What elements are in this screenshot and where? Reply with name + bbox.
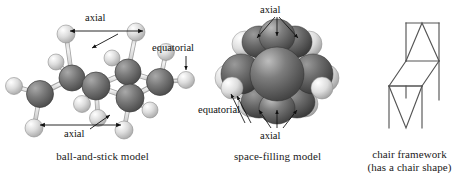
label-equatorial-space: equatorial <box>198 104 240 116</box>
caption-space-filling: space-filling model <box>205 150 350 163</box>
caption-ball-and-stick: ball-and-stick model <box>0 150 205 163</box>
panel-chair-framework: chair framework (has a chair shape) <box>350 0 469 181</box>
label-equatorial-ball: equatorial <box>152 42 194 54</box>
label-axial-bottom-space: axial <box>260 130 280 142</box>
label-axial-top-space: axial <box>260 4 280 16</box>
label-axial-bottom-ball: axial <box>64 128 84 140</box>
space-filling-model-graphic <box>205 0 350 150</box>
panel-space-filling: axial equatorial axial space-filling mod… <box>205 0 350 181</box>
panel-ball-and-stick: axial equatorial axial ball-and-stick mo… <box>0 0 205 181</box>
caption-chair-framework: chair framework (has a chair shape) <box>350 148 469 174</box>
caption-chair-line2: (has a chair shape) <box>350 161 469 174</box>
label-axial-top-ball: axial <box>85 12 105 24</box>
caption-chair-line1: chair framework <box>372 148 447 160</box>
chair-framework-graphic <box>350 0 469 148</box>
cyclohexane-conformation-figure: axial equatorial axial ball-and-stick mo… <box>0 0 469 181</box>
